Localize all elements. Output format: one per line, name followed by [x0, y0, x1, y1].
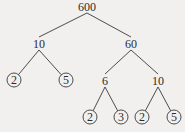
composite-node: 60 [125, 37, 137, 51]
tree-edge-10-to-5 [39, 50, 61, 75]
prime-factor-node: 3 [114, 110, 128, 124]
composite-node: 10 [33, 37, 45, 51]
prime-factor-node: 2 [7, 73, 21, 87]
tree-edge-10-to-2 [18, 50, 39, 75]
node-label: 600 [78, 0, 96, 14]
node-label: 2 [11, 73, 17, 87]
factor-tree-canvas: 6001060256102325 [0, 0, 185, 132]
composite-node: 6 [102, 74, 108, 88]
node-label: 10 [152, 74, 164, 88]
tree-edge-10-to-5 [158, 87, 171, 111]
node-label: 3 [118, 110, 124, 124]
tree-edge-10-to-2 [145, 87, 158, 111]
factor-tree-diagram: 6001060256102325 [0, 0, 185, 132]
tree-nodes: 6001060256102325 [7, 0, 181, 124]
tree-edges [18, 13, 170, 111]
node-label: 2 [139, 110, 145, 124]
node-label: 60 [125, 37, 137, 51]
node-label: 10 [33, 37, 45, 51]
node-label: 5 [63, 73, 69, 87]
prime-factor-node: 5 [167, 110, 181, 124]
prime-factor-node: 5 [59, 73, 73, 87]
composite-node: 600 [78, 0, 96, 14]
node-label: 5 [171, 110, 177, 124]
tree-edge-60-to-10 [131, 50, 158, 74]
prime-factor-node: 2 [135, 110, 149, 124]
node-label: 6 [102, 74, 108, 88]
tree-edge-600-to-60 [87, 13, 131, 37]
tree-edge-60-to-6 [105, 50, 131, 74]
tree-edge-600-to-10 [39, 13, 87, 37]
prime-factor-node: 2 [83, 110, 97, 124]
tree-edge-6-to-3 [105, 87, 118, 111]
tree-edge-6-to-2 [93, 87, 105, 111]
node-label: 2 [87, 110, 93, 124]
composite-node: 10 [152, 74, 164, 88]
